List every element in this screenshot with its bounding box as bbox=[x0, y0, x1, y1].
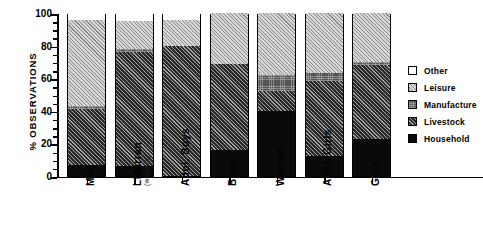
x-axis-label: LMurran bbox=[132, 142, 143, 186]
legend: OtherLeisureManufactureLivestockHousehol… bbox=[408, 62, 483, 147]
y-major-tick bbox=[50, 112, 57, 114]
legend-swatch-leisure bbox=[408, 83, 417, 92]
y-tick-label: 60 bbox=[28, 74, 52, 84]
x-axis-label: Boys bbox=[227, 159, 238, 186]
y-major-tick bbox=[50, 47, 57, 49]
y-minor-tick bbox=[53, 55, 58, 57]
legend-swatch-livestock bbox=[408, 117, 417, 126]
x-axis-labels: MenLMurran(warriors)Adol. BoysBoysWomenA… bbox=[57, 186, 417, 246]
x-axis-label: Women bbox=[275, 147, 286, 186]
y-minor-tick bbox=[53, 169, 58, 171]
y-minor-tick bbox=[53, 120, 58, 122]
x-axis-label: Girls bbox=[370, 160, 381, 186]
y-major-tick bbox=[50, 79, 57, 81]
bar-segment-manufacture bbox=[116, 49, 153, 52]
bar-men[interactable] bbox=[67, 14, 106, 177]
y-major-tick bbox=[50, 14, 57, 16]
y-minor-tick bbox=[53, 96, 58, 98]
bar-segment-manufacture bbox=[258, 75, 295, 91]
y-minor-tick bbox=[53, 30, 58, 32]
y-minor-tick bbox=[53, 104, 58, 106]
bar-segment-leisure bbox=[68, 20, 105, 106]
bar-segment-leisure bbox=[258, 13, 295, 75]
y-tick-label: 100 bbox=[28, 9, 52, 19]
legend-label: Leisure bbox=[424, 83, 456, 93]
legend-label: Livestock bbox=[424, 117, 465, 127]
plot-area bbox=[57, 14, 397, 177]
y-minor-tick bbox=[53, 128, 58, 130]
bar-segment-leisure bbox=[163, 20, 200, 46]
y-major-tick bbox=[50, 177, 57, 179]
legend-swatch-household bbox=[408, 134, 417, 143]
bar-segment-livestock bbox=[211, 64, 248, 150]
y-minor-tick bbox=[53, 38, 58, 40]
legend-swatch-manufacture bbox=[408, 100, 417, 109]
stacked-bar-chart: % OBSERVATIONS 020406080100 MenLMurran(w… bbox=[0, 0, 483, 246]
bar-segment-leisure bbox=[211, 13, 248, 64]
y-minor-tick bbox=[53, 153, 58, 155]
x-axis-label: Men bbox=[85, 164, 96, 186]
y-minor-tick bbox=[53, 71, 58, 73]
bar-segment-manufacture bbox=[353, 62, 390, 65]
legend-item-other[interactable]: Other bbox=[408, 62, 483, 79]
y-tick-label: 20 bbox=[28, 139, 52, 149]
bar-segment-livestock bbox=[353, 65, 390, 138]
legend-item-leisure[interactable]: Leisure bbox=[408, 79, 483, 96]
y-major-tick bbox=[50, 144, 57, 146]
bar-segment-leisure bbox=[353, 13, 390, 62]
bar-segment-leisure bbox=[306, 13, 343, 73]
bar-segment-other bbox=[163, 13, 200, 20]
bar-segment-other bbox=[68, 13, 105, 20]
bar-girls[interactable] bbox=[352, 14, 391, 177]
bar-segment-other bbox=[116, 13, 153, 21]
bar-segment-manufacture bbox=[68, 106, 105, 109]
y-minor-tick bbox=[53, 63, 58, 65]
legend-item-manufacture[interactable]: Manufacture bbox=[408, 96, 483, 113]
y-minor-tick bbox=[53, 22, 58, 24]
legend-item-livestock[interactable]: Livestock bbox=[408, 113, 483, 130]
x-axis-label: Adol. Boys bbox=[180, 128, 191, 186]
y-tick-label: 0 bbox=[28, 172, 52, 182]
bar-boys[interactable] bbox=[210, 14, 249, 177]
legend-item-household[interactable]: Household bbox=[408, 130, 483, 147]
x-axis-label: Adol. Girls bbox=[322, 129, 333, 186]
y-axis-tick-labels: 020406080100 bbox=[24, 0, 52, 246]
legend-swatch-other bbox=[408, 66, 417, 75]
y-minor-tick bbox=[53, 87, 58, 89]
legend-label: Household bbox=[424, 134, 470, 144]
bar-group bbox=[59, 14, 397, 177]
bar-segment-leisure bbox=[116, 21, 153, 49]
bar-segment-manufacture bbox=[306, 73, 343, 81]
legend-label: Other bbox=[424, 66, 448, 76]
x-axis-sublabel: (warriors) bbox=[143, 156, 150, 186]
bar-segment-livestock bbox=[258, 91, 295, 111]
y-minor-tick bbox=[53, 161, 58, 163]
legend-label: Manufacture bbox=[424, 100, 477, 110]
y-tick-label: 40 bbox=[28, 107, 52, 117]
y-tick-label: 80 bbox=[28, 42, 52, 52]
bar-segment-livestock bbox=[68, 109, 105, 164]
y-minor-tick bbox=[53, 136, 58, 138]
